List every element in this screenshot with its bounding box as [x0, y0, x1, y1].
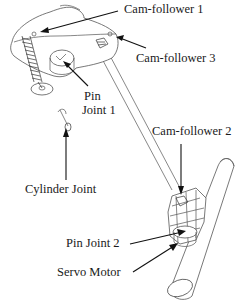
- label-pin-joint-2: Pin Joint 2: [66, 237, 120, 250]
- cam-housing: [11, 5, 118, 77]
- label-cylinder-joint: Cylinder Joint: [25, 183, 96, 196]
- arrow-cylinder-joint: [63, 128, 69, 180]
- label-cam-follower-1: Cam-follower 1: [124, 3, 204, 16]
- connecting-rod: [100, 52, 180, 190]
- label-pin-joint-1-line2: Joint 1: [82, 104, 116, 117]
- assembly-diagram: [0, 0, 248, 304]
- label-cam-follower-3: Cam-follower 3: [136, 52, 216, 65]
- label-servo-motor: Servo Motor: [57, 266, 121, 279]
- label-cam-follower-2: Cam-follower 2: [152, 125, 232, 138]
- cylinder-joint-part: [58, 109, 71, 131]
- arrow-cam-follower-3: [116, 35, 146, 48]
- arrow-cam-follower-2: [178, 144, 184, 195]
- arrow-servo-motor: [133, 243, 178, 272]
- label-pin-joint-1-line1: Pin: [84, 90, 101, 103]
